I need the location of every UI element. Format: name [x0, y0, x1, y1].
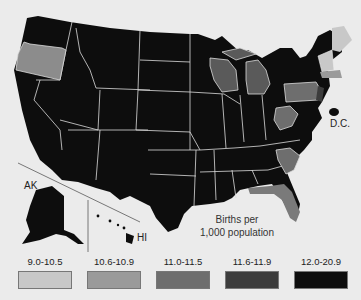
legend-item-3: 11.0-11.5	[156, 256, 210, 289]
note-line-2: 1,000 population	[196, 226, 278, 239]
legend-label: 11.0-11.5	[156, 256, 210, 267]
legend-swatch	[18, 271, 72, 289]
legend-item-2: 10.6-10.9	[87, 256, 141, 289]
note-line-1: Births per	[196, 213, 278, 226]
legend-swatch	[156, 271, 210, 289]
label-ak: AK	[24, 180, 37, 191]
legend-swatch	[87, 271, 141, 289]
legend-item-1: 9.0-10.5	[18, 256, 72, 289]
label-dc: D.C.	[330, 118, 350, 129]
label-hi: HI	[137, 232, 147, 243]
legend-swatch	[294, 271, 348, 289]
state-alaska	[22, 186, 84, 244]
legend-item-5: 12.0-20.9	[294, 256, 348, 289]
legend-swatch	[225, 271, 279, 289]
legend-label: 11.6-11.9	[225, 256, 279, 267]
legend-label: 9.0-10.5	[18, 256, 72, 267]
legend-item-4: 11.6-11.9	[225, 256, 279, 289]
state-hawaii	[97, 215, 134, 244]
legend: 9.0-10.5 10.6-10.9 11.0-11.5 11.6-11.9 1…	[0, 256, 361, 296]
map-unit-note: Births per 1,000 population	[196, 213, 278, 239]
dc-marker	[329, 108, 339, 116]
legend-label: 10.6-10.9	[87, 256, 141, 267]
legend-label: 12.0-20.9	[294, 256, 348, 267]
us-birth-rate-map	[0, 0, 361, 300]
state-maine	[332, 26, 352, 52]
